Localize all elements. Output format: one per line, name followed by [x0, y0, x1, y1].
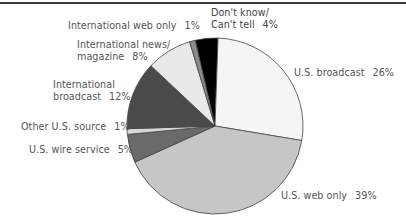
label-dont-know-line2: Can't tell: [211, 19, 255, 30]
label-intl-broadcast-line1: International: [53, 79, 131, 91]
label-dont-know-pct: 4%: [263, 19, 278, 30]
label-us-wire-text: U.S. wire service: [29, 144, 110, 155]
label-intl-news-magazine: International news/ magazine8%: [77, 39, 170, 62]
label-us-broadcast-pct: 26%: [373, 67, 394, 78]
label-other-us-text: Other U.S. source: [21, 121, 106, 132]
label-other-us-pct: 1%: [114, 121, 129, 132]
label-intl-news-line2: magazine: [77, 51, 124, 62]
label-intl-broadcast-pct: 12%: [109, 91, 130, 102]
label-us-broadcast: U.S. broadcast26%: [294, 67, 394, 79]
label-dont-know: Don't know/ Can't tell4%: [211, 7, 278, 30]
label-intl-web-pct: 1%: [185, 20, 200, 31]
label-intl-broadcast: International broadcast12%: [53, 79, 131, 102]
label-dont-know-line1: Don't know/: [211, 7, 278, 19]
label-us-web-only-text: U.S. web only: [281, 190, 347, 201]
label-us-web-only: U.S. web only39%: [281, 190, 377, 202]
label-us-web-only-pct: 39%: [355, 190, 376, 201]
pie-slice-u-s-broadcast: [215, 38, 303, 140]
label-intl-news-pct: 8%: [132, 51, 147, 62]
label-us-broadcast-text: U.S. broadcast: [294, 67, 365, 78]
label-intl-news-line1: International news/: [77, 39, 170, 51]
label-us-wire-pct: 5%: [118, 144, 133, 155]
label-intl-broadcast-line2: broadcast: [53, 91, 101, 102]
label-us-wire-service: U.S. wire service5%: [29, 144, 133, 156]
label-intl-web-text: International web only: [68, 20, 177, 31]
label-other-us-source: Other U.S. source1%: [21, 121, 130, 133]
label-intl-web-only: International web only1%: [68, 20, 200, 32]
